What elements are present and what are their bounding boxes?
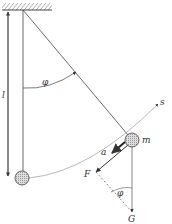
label-length: l — [2, 90, 5, 100]
label-gravity: G — [128, 214, 135, 224]
bob-rest — [15, 171, 29, 185]
label-angle-top: φ — [42, 77, 49, 87]
ceiling — [2, 3, 52, 10]
pendulum-diagram: l φ m s a F φ G — [0, 0, 172, 224]
acceleration-vector — [112, 142, 125, 153]
label-angle-bottom: φ — [117, 188, 124, 198]
label-acceleration: a — [101, 147, 106, 157]
label-force: F — [83, 169, 91, 179]
angle-arc — [23, 72, 76, 88]
force-dash — [96, 172, 132, 212]
label-mass: m — [142, 135, 151, 145]
bob-displaced — [125, 133, 139, 147]
label-arc: s — [160, 97, 165, 107]
